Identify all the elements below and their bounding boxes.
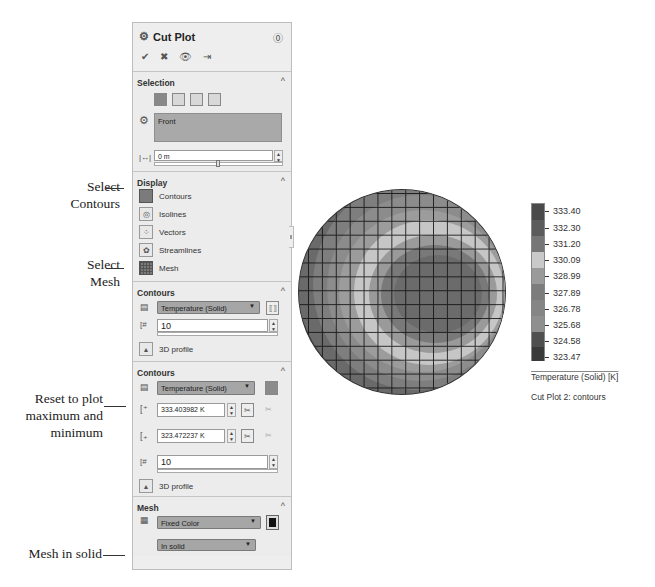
3d-profile-button[interactable]: ▲ 3D profile (139, 479, 193, 493)
mesh-color-dropdown[interactable]: Fixed Color ▼ (157, 516, 261, 529)
callout-line (106, 268, 124, 269)
streamlines-icon: ✿ (139, 243, 153, 257)
display-streamlines[interactable]: ✿ Streamlines (139, 243, 201, 257)
section-title: Selection (137, 78, 175, 88)
parameter-icon: ▤ (140, 302, 149, 312)
cut-plot-panel: ⚙ Cut Plot ⓪ ✔ ✖ 👁 ⇥ Selection ^ ⚙ Front… (132, 22, 292, 570)
checkmark-icon[interactable]: ✔ (141, 51, 149, 62)
mesh-location-dropdown[interactable]: In solid ▼ (157, 539, 256, 551)
display-label: Isolines (159, 210, 186, 219)
legend-tick (545, 357, 549, 358)
section-title: Contours (137, 288, 175, 298)
reset-min-button[interactable]: ✂ (241, 429, 254, 443)
section-title: Mesh (137, 503, 159, 513)
plane-selection-box[interactable]: Front (154, 113, 282, 142)
parameter-value: Temperature (Solid) (161, 384, 227, 393)
profile-label: 3D profile (159, 345, 193, 354)
levels-slider[interactable] (157, 469, 278, 473)
legend-segment (532, 220, 544, 236)
reset-disabled-icon: ✂ (265, 431, 272, 440)
levels-spinner[interactable]: ▲▼ (269, 319, 278, 332)
callout-line (103, 555, 125, 556)
contours-section-2: Contours ^ ▤ Temperature (Solid) ▼ [⁺ 33… (133, 361, 291, 496)
legend-label: 332.30 (553, 223, 581, 233)
callout-text: Reset to plot (10, 390, 103, 407)
legend-segment (532, 300, 544, 316)
callout-line (106, 188, 124, 189)
collapse-icon[interactable]: ^ (281, 286, 285, 296)
collapse-icon[interactable]: ^ (281, 176, 285, 186)
offset-icon: |↔| (139, 153, 151, 162)
mesh-location: In solid (161, 542, 185, 551)
front-plane-button[interactable] (154, 93, 167, 106)
reset-max-button[interactable]: ✂ (241, 403, 254, 417)
3d-profile-button[interactable]: ▲ 3D profile (139, 342, 193, 356)
panel-title: ⚙ Cut Plot (139, 30, 195, 43)
help-icon[interactable]: ⓪ (273, 30, 283, 45)
close-icon[interactable]: ✖ (160, 51, 168, 62)
callout-select-mesh: Select Mesh (40, 256, 120, 290)
legend-tick (545, 309, 549, 310)
pushpin-icon[interactable]: ⇥ (203, 51, 211, 62)
offset-input[interactable]: 0 m (154, 150, 273, 161)
reset-disabled-icon: ✂ (265, 405, 272, 414)
mesh-color-swatch[interactable] (266, 515, 279, 530)
legend-tick (545, 293, 549, 294)
legend-label: 333.40 (553, 206, 581, 216)
display-isolines[interactable]: ◎ Isolines (139, 207, 186, 221)
adjust-range-button[interactable] (265, 381, 278, 395)
levels-value: 10 (161, 457, 171, 467)
levels-slider[interactable] (157, 332, 278, 336)
display-mesh[interactable]: Mesh (139, 261, 179, 275)
min-value-input[interactable]: 323.472237 K (157, 429, 225, 443)
legend-label: 331.20 (553, 239, 581, 249)
mesh-section: Mesh ^ ▦ Fixed Color ▼ In solid ▼ (133, 496, 291, 556)
right-plane-button[interactable] (190, 93, 203, 106)
mesh-color-mode: Fixed Color (161, 519, 199, 528)
eye-icon[interactable]: 👁 (179, 51, 192, 62)
slider-thumb[interactable] (216, 160, 220, 167)
min-spinner[interactable]: ▲▼ (227, 429, 236, 443)
legend-label: 330.09 (553, 255, 581, 265)
legend-tick (545, 341, 549, 342)
display-label: Mesh (159, 264, 179, 273)
collapse-icon[interactable]: ^ (281, 501, 285, 511)
top-plane-button[interactable] (172, 93, 185, 106)
parameter-dropdown[interactable]: Temperature (Solid) ▼ (157, 301, 260, 314)
collapse-icon[interactable]: ^ (281, 76, 285, 86)
panel-title-text: Cut Plot (153, 31, 195, 43)
isolines-icon: ◎ (139, 207, 153, 221)
collapse-icon[interactable]: ^ (281, 366, 285, 376)
profile-label: 3D profile (159, 482, 193, 491)
callout-text: Contours (40, 195, 120, 212)
chevron-down-icon: ▼ (250, 518, 256, 524)
levels-icon: [# (140, 457, 147, 466)
max-spinner[interactable]: ▲▼ (227, 403, 236, 417)
callout-mesh-in-solid: Mesh in solid (10, 545, 102, 562)
display-label: Contours (159, 192, 191, 201)
panel-resize-handle[interactable] (289, 226, 294, 248)
legend-tick (545, 211, 549, 212)
offset-spinner[interactable]: ▲▼ (274, 150, 283, 162)
levels-input[interactable]: 10 (157, 319, 268, 332)
selection-section: Selection ^ ⚙ Front |↔| 0 m ▲▼ (133, 71, 291, 171)
chevron-down-icon: ▼ (245, 541, 251, 547)
contours-icon (139, 189, 153, 203)
action-bar: ✔ ✖ 👁 ⇥ (141, 51, 211, 62)
max-value-input[interactable]: 333.403982 K (157, 403, 225, 417)
adjust-range-button[interactable]: ⟦⟧ (266, 301, 279, 315)
callout-text: Mesh (40, 273, 120, 290)
legend-tick (545, 276, 549, 277)
max-icon: [⁺ (140, 404, 148, 414)
custom-plane-button[interactable] (208, 93, 221, 106)
callout-reset-max-min: Reset to plot maximum and minimum (10, 390, 103, 441)
offset-value: 0 m (158, 153, 170, 160)
levels-input[interactable]: 10 (157, 455, 268, 469)
levels-spinner[interactable]: ▲▼ (269, 455, 278, 469)
parameter-dropdown[interactable]: Temperature (Solid) ▼ (157, 381, 255, 395)
display-contours[interactable]: Contours (139, 189, 191, 203)
levels-icon: [# (140, 320, 147, 329)
display-vectors[interactable]: ⁘ Vectors (139, 225, 186, 239)
section-title: Contours (137, 368, 175, 378)
vectors-icon: ⁘ (139, 225, 153, 239)
